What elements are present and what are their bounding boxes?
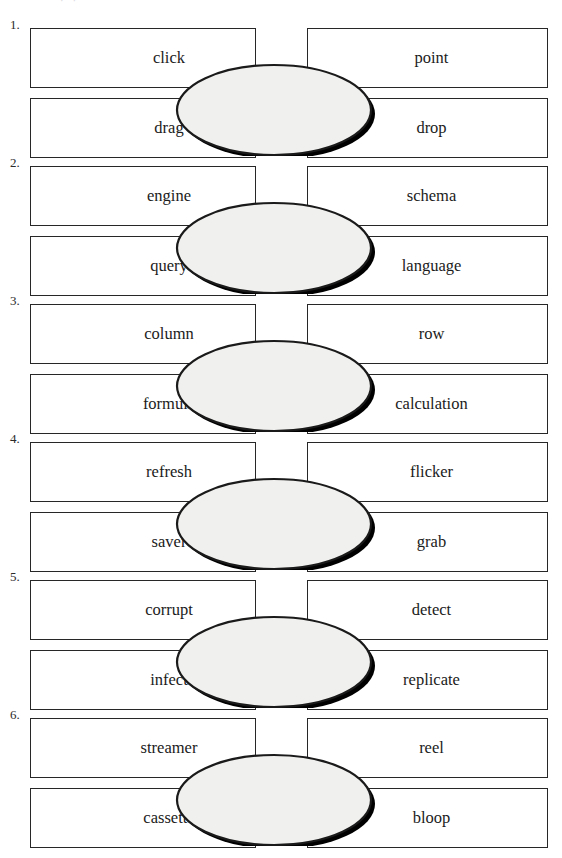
pair-group: 6. streamer reel cassette bloop [0, 708, 562, 846]
center-answer-blank[interactable] [178, 474, 374, 564]
answer-box-label: schema [308, 186, 547, 206]
answer-box-label: point [308, 48, 547, 68]
answer-box-label: engine [31, 186, 255, 206]
group-number: 3. [10, 294, 20, 307]
pair-group: 1. click point drag drop [0, 18, 562, 156]
center-answer-blank[interactable] [178, 750, 374, 840]
answer-box-label: corrupt [31, 600, 255, 620]
pair-group: 5. corrupt detect infect replicate [0, 570, 562, 708]
pair-group: 4. refresh flicker saver grab [0, 432, 562, 570]
group-number: 6. [10, 708, 20, 721]
answer-box-label: row [308, 324, 547, 344]
pair-group: 2. engine schema query language [0, 156, 562, 294]
answer-box-label: refresh [31, 462, 255, 482]
center-answer-blank[interactable] [178, 60, 374, 150]
group-number: 1. [10, 18, 20, 31]
scan-edge-artifact: · · [60, 0, 280, 4]
center-answer-blank[interactable] [178, 198, 374, 288]
answer-box-label: streamer [31, 738, 255, 758]
answer-box-label: detect [308, 600, 547, 620]
group-number: 4. [10, 432, 20, 445]
answer-box-label: click [31, 48, 255, 68]
group-number: 5. [10, 570, 20, 583]
answer-box-label: flicker [308, 462, 547, 482]
answer-box-label: reel [308, 738, 547, 758]
center-answer-blank[interactable] [178, 336, 374, 426]
answer-box-label: column [31, 324, 255, 344]
worksheet-page: · · 1. click point drag drop 2. engine s… [0, 0, 562, 858]
center-answer-blank[interactable] [178, 612, 374, 702]
group-number: 2. [10, 156, 20, 169]
pair-group: 3. column row formula calculation [0, 294, 562, 432]
